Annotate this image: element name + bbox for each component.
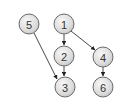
graph-canvas: 5 1 2 4 3 6 xyxy=(0,0,121,106)
node-label: 5 xyxy=(26,19,32,31)
node-label: 2 xyxy=(61,51,67,63)
node-label: 6 xyxy=(100,82,106,94)
edge-1-to-4 xyxy=(71,31,95,50)
node-5[interactable]: 5 xyxy=(19,14,39,34)
node-2[interactable]: 2 xyxy=(54,46,74,66)
node-label: 3 xyxy=(62,82,68,94)
node-1[interactable]: 1 xyxy=(54,14,74,34)
node-label: 4 xyxy=(100,52,106,64)
node-6[interactable]: 6 xyxy=(93,77,113,97)
node-3[interactable]: 3 xyxy=(55,77,75,97)
node-label: 1 xyxy=(61,19,67,31)
node-4[interactable]: 4 xyxy=(93,47,113,67)
